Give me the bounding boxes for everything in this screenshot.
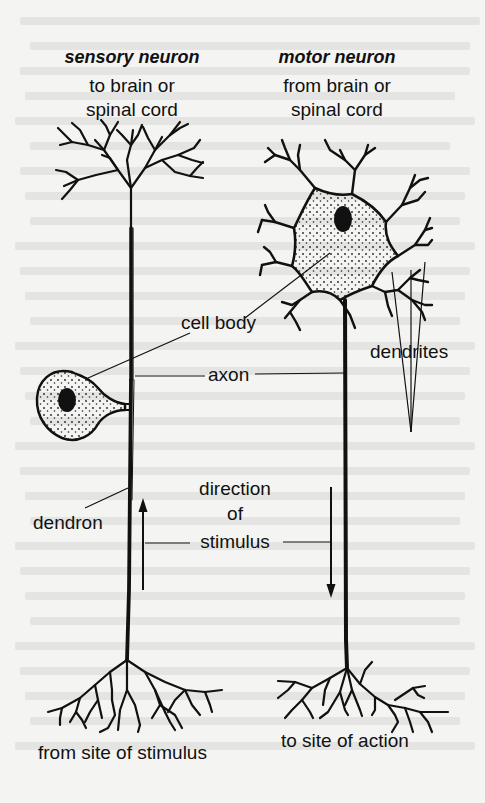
motor-neuron-title: motor neuron	[262, 46, 412, 68]
direction-label-line2: of	[180, 503, 290, 525]
motor-nucleus	[334, 206, 352, 232]
sensory-bottom-label: from site of stimulus	[38, 742, 207, 764]
motor-bottom-branches	[278, 662, 448, 732]
motor-axon	[345, 300, 347, 668]
sensory-cell-body	[37, 371, 125, 440]
motor-top-line1: from brain or	[262, 75, 412, 97]
axon-label: axon	[208, 364, 249, 386]
cell-body-label: cell body	[181, 312, 256, 334]
dendron-label: dendron	[33, 512, 103, 534]
motor-bottom-label: to site of action	[281, 730, 409, 752]
arrow-up-icon	[139, 498, 148, 590]
axon-leader-right	[255, 373, 345, 374]
dendrites-label: dendrites	[370, 341, 448, 363]
direction-label-line3: stimulus	[180, 531, 290, 553]
sensory-neuron-title: sensory neuron	[52, 46, 212, 68]
sensory-neuron	[37, 120, 222, 732]
dendron-leader	[85, 488, 128, 508]
cell-body-leader-sensory	[88, 333, 190, 378]
motor-cell-body	[292, 188, 398, 300]
sensory-top-branches	[56, 120, 203, 228]
motor-top-line2: spinal cord	[262, 99, 412, 121]
direction-label-line1: direction	[180, 478, 290, 500]
sensory-top-line1: to brain or	[52, 75, 212, 97]
sensory-top-line2: spinal cord	[52, 99, 212, 121]
sensory-bottom-branches	[48, 660, 222, 732]
sensory-nucleus	[58, 388, 76, 412]
motor-neuron	[258, 140, 448, 732]
sensory-dendron	[127, 380, 131, 660]
